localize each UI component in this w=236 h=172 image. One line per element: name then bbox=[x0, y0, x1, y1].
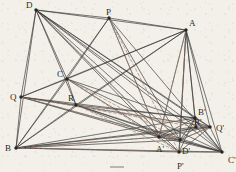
point-label-P: P bbox=[106, 8, 111, 17]
vertex-D bbox=[34, 8, 37, 11]
point-label-Qprime: Q' bbox=[216, 124, 224, 133]
vertex-Qprime bbox=[208, 125, 211, 128]
dashed-edge-R-Qprime bbox=[76, 105, 210, 127]
point-label-Dprime: D' bbox=[182, 147, 190, 156]
edge-B-Qprime bbox=[16, 127, 210, 148]
point-label-B: B bbox=[5, 144, 11, 153]
vertex-C bbox=[65, 77, 68, 80]
edge-D-Q bbox=[21, 10, 36, 97]
point-label-Bprime: B' bbox=[198, 108, 206, 117]
point-label-Rprime: R' bbox=[194, 118, 202, 127]
vertex-Q bbox=[19, 95, 22, 98]
edge-C-Qprime bbox=[67, 79, 210, 127]
dashed-edge-D-Pprime bbox=[36, 10, 179, 152]
vertex-Aprime bbox=[157, 135, 160, 138]
bottom-edge-mark bbox=[110, 166, 124, 168]
geometry-figure: DPACQRBB'Q'R'A'D'P'C' bbox=[0, 0, 236, 172]
point-label-Pprime: P' bbox=[177, 162, 184, 171]
point-label-Cprime: C' bbox=[228, 156, 236, 165]
point-label-C: C bbox=[57, 70, 63, 79]
edge-A-Rprime bbox=[186, 30, 196, 127]
vertex-Cprime bbox=[220, 150, 223, 153]
point-label-Q: Q bbox=[10, 93, 17, 102]
vertex-Dprime bbox=[178, 138, 181, 141]
vertex-B bbox=[14, 146, 17, 149]
point-label-Aprime: A' bbox=[156, 145, 164, 154]
figure-canvas bbox=[0, 0, 236, 172]
point-label-R: R bbox=[68, 94, 74, 103]
point-label-A: A bbox=[189, 19, 196, 28]
edge-D-B bbox=[16, 10, 36, 148]
point-label-D: D bbox=[26, 1, 33, 10]
vertex-A bbox=[184, 28, 187, 31]
edge-A-Cprime bbox=[186, 30, 222, 152]
edge-B-Pprime bbox=[16, 148, 179, 152]
vertex-Pprime bbox=[177, 150, 180, 153]
vertex-R bbox=[74, 103, 77, 106]
edge-R-B bbox=[16, 105, 76, 148]
edge-Q-B bbox=[16, 97, 21, 148]
dashed-edge-C-Dprime bbox=[67, 79, 180, 140]
